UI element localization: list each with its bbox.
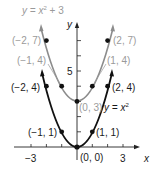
label-1-1: (1, 1)	[96, 127, 119, 138]
arrow-icon	[40, 69, 45, 77]
tick-label-5: 5	[67, 66, 73, 77]
point-2-7	[105, 38, 110, 43]
equation-label-bottom: y = x2	[103, 102, 129, 113]
point-neg2-4	[44, 84, 49, 89]
x-axis-arrow-icon	[134, 145, 140, 149]
equation-label-top: y = x2 + 3	[21, 5, 64, 16]
y-ticks	[77, 41, 81, 132]
arrow-icon	[111, 24, 116, 32]
label-neg1-1: (−1, 1)	[28, 127, 57, 138]
label-0-0: (0, 0)	[80, 152, 103, 163]
label-1-4: (1, 4)	[107, 55, 130, 66]
point-2-4	[105, 84, 110, 89]
point-neg2-7	[44, 38, 49, 43]
label-2-7: (2, 7)	[113, 35, 136, 46]
parabola-graph: −3 3 5 x y y = x2 + 3 y = x2	[0, 0, 157, 174]
tick-label-neg3: −3	[25, 153, 37, 164]
label-neg2-7: (−2, 7)	[12, 35, 41, 46]
point-neg1-1	[59, 129, 64, 134]
label-neg1-4: (−1, 4)	[17, 55, 46, 66]
y-axis-arrow-icon	[75, 22, 79, 28]
label-2-4: (2, 4)	[112, 82, 135, 93]
point-0-0	[74, 144, 79, 149]
arrow-icon	[39, 24, 44, 32]
point-1-4	[90, 84, 95, 89]
point-neg1-4	[59, 84, 64, 89]
point-1-1	[90, 129, 95, 134]
y-axis-label: y	[66, 19, 73, 30]
tick-label-3: 3	[120, 153, 126, 164]
arrow-icon	[110, 69, 115, 77]
label-neg2-4: (−2, 4)	[11, 82, 40, 93]
x-axis-label: x	[143, 153, 150, 164]
label-0-3: (0, 3)	[79, 102, 102, 113]
